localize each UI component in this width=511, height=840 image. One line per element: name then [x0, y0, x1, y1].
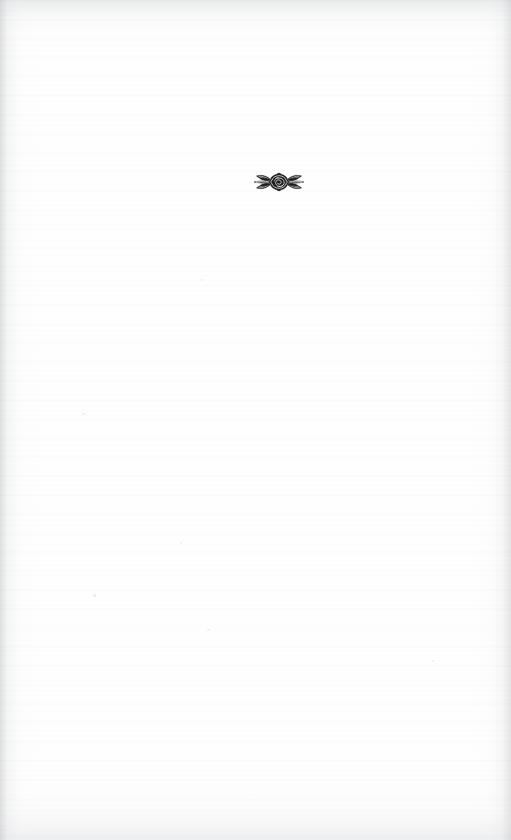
scan-banding-wide: [0, 0, 511, 840]
scan-speck: [201, 279, 203, 281]
scanned-page: [0, 0, 511, 840]
scan-edge-bottom: [0, 770, 511, 840]
scan-speck: [82, 413, 85, 415]
scan-speck: [93, 594, 96, 597]
scan-speck: [432, 660, 434, 662]
scan-banding-fine: [0, 0, 511, 840]
scan-speck: [94, 594, 96, 596]
scan-edge-top: [0, 0, 511, 46]
scan-speck: [207, 629, 210, 631]
scan-edge-left: [0, 0, 34, 840]
scan-edge-right: [475, 0, 511, 840]
scan-speck: [180, 542, 182, 544]
floral-rosette-ornament: [252, 170, 306, 194]
